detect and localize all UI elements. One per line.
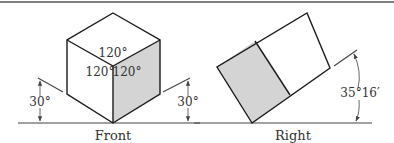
right-view: 35°16′ Right	[194, 13, 380, 143]
angle-label-left: 120°	[86, 65, 115, 79]
arc-dim-lower	[356, 100, 359, 121]
tilt-label-35: 35°16′	[340, 86, 380, 100]
angle-label-right: 120°	[113, 65, 142, 79]
right-shaded-face	[217, 41, 290, 123]
tilt-label-left: 30°	[29, 95, 50, 109]
angle-label-top: 120°	[99, 46, 128, 60]
left-30-line	[38, 78, 63, 92]
right-caption: Right	[275, 128, 312, 143]
right-30-line	[163, 78, 190, 92]
tilt-line-35	[334, 50, 357, 66]
front-view: 120° 120° 120° 30° 30° Front	[18, 13, 200, 143]
isometric-diagram: 120° 120° 120° 30° 30° Front 35°16′ Righ…	[0, 0, 394, 143]
front-caption: Front	[95, 128, 132, 143]
arc-dim-upper	[354, 54, 359, 88]
tilt-label-right: 30°	[177, 95, 198, 109]
